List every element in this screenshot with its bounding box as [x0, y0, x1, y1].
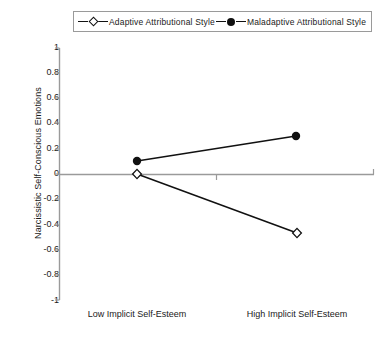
- data-point-adaptive-low: [133, 169, 142, 178]
- data-point-maladaptive-low: [133, 157, 141, 165]
- series-line-maladaptive: [137, 136, 296, 161]
- data-point-maladaptive-high: [292, 132, 300, 140]
- chart-figure: Adaptive Attributional Style Maladaptive…: [0, 0, 392, 339]
- x-tick-label-low: Low Implicit Self-Esteem: [76, 309, 198, 319]
- x-tick-label-high: High Implicit Self-Esteem: [234, 309, 360, 319]
- data-point-adaptive-high: [293, 228, 302, 237]
- chart-canvas: [0, 0, 392, 339]
- series-line-adaptive: [137, 174, 297, 233]
- plot-area: 1 0.8 0.6 0.4 0.2 0 -0.2 -0.4 -0.6 -0.8 …: [0, 0, 392, 339]
